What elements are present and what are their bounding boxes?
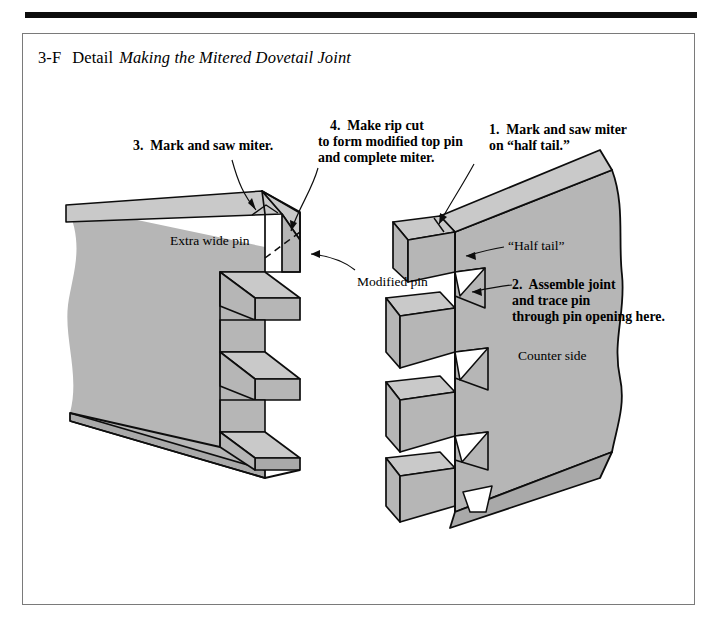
left-socket-2 bbox=[220, 320, 265, 352]
label-counter-side: Counter side bbox=[518, 348, 587, 364]
callout-step-2-line1: 2. Assemble joint bbox=[512, 277, 615, 293]
left-socket-3 bbox=[220, 400, 265, 432]
left-pin-2-front-face bbox=[255, 298, 300, 320]
callout-step-2-line3: through pin opening here. bbox=[512, 309, 665, 325]
callout-step-1-line2: on “half tail.” bbox=[489, 138, 570, 154]
right-tail-4-body bbox=[400, 468, 455, 522]
figure-page: 3-FDetailMaking the Mitered Dovetail Joi… bbox=[0, 0, 722, 633]
callout-step-3: 3. Mark and saw miter. bbox=[133, 138, 273, 154]
leader-step4 bbox=[291, 168, 318, 231]
leader-modified-pin-arrowhead bbox=[311, 250, 320, 258]
callout-step-1-line1: 1. Mark and saw miter bbox=[489, 122, 627, 138]
right-tail-2 bbox=[386, 292, 455, 368]
left-pin-3-front-face bbox=[255, 379, 300, 400]
right-tail-3 bbox=[386, 376, 455, 452]
right-tail-3-body bbox=[400, 392, 455, 452]
callout-step-4-line2: to form modified top pin bbox=[318, 134, 463, 150]
left-pin-4-front-face bbox=[255, 458, 300, 470]
callout-step-4-line3: and complete miter. bbox=[318, 150, 434, 166]
label-half-tail: “Half tail” bbox=[508, 238, 565, 254]
callout-step-4-line1: 4. Make rip cut bbox=[330, 118, 424, 134]
right-tail-4 bbox=[386, 452, 455, 522]
right-tail-board bbox=[386, 150, 623, 528]
right-tail-2-body bbox=[400, 308, 455, 368]
label-extra-wide-pin: Extra wide pin bbox=[170, 233, 249, 249]
callout-step-2-line2: and trace pin bbox=[512, 293, 590, 309]
half-tail bbox=[393, 216, 455, 282]
left-board-top-edge bbox=[66, 191, 282, 222]
label-modified-pin: Modified pin bbox=[357, 274, 428, 290]
